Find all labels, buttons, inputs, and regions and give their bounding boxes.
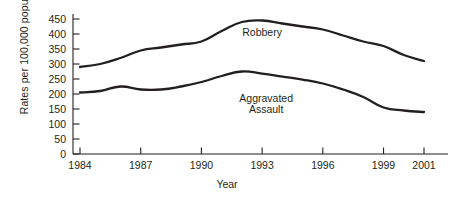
y-tick-label: 150 — [32, 104, 66, 114]
x-axis-title: Year — [0, 178, 454, 190]
y-tick-label: 400 — [32, 29, 66, 39]
y-tick-label: 100 — [32, 119, 66, 129]
y-tick-label: 350 — [32, 44, 66, 54]
y-tick-label: 200 — [32, 89, 66, 99]
x-tick-label: 1996 — [301, 160, 345, 170]
y-tick-label: 50 — [32, 134, 66, 144]
x-axis-ticks — [80, 148, 424, 155]
y-tick-label: 250 — [32, 74, 66, 84]
y-tick-label: 0 — [32, 149, 66, 159]
x-tick-label: 1990 — [179, 160, 223, 170]
x-tick-label: 1999 — [362, 160, 406, 170]
x-tick-label: 1984 — [58, 160, 102, 170]
chart-container: Rates per 100,000 population Year Robber… — [0, 0, 454, 203]
y-tick-label: 450 — [32, 14, 66, 24]
x-tick-label: 2001 — [402, 160, 446, 170]
y-axis-ticks — [73, 19, 80, 154]
x-tick-label: 1987 — [119, 160, 163, 170]
series-label-robbery: Robbery — [222, 27, 302, 39]
series-label-aggravated-assault: Aggravated Assault — [221, 93, 311, 116]
x-tick-label: 1993 — [240, 160, 284, 170]
y-tick-label: 300 — [32, 59, 66, 69]
